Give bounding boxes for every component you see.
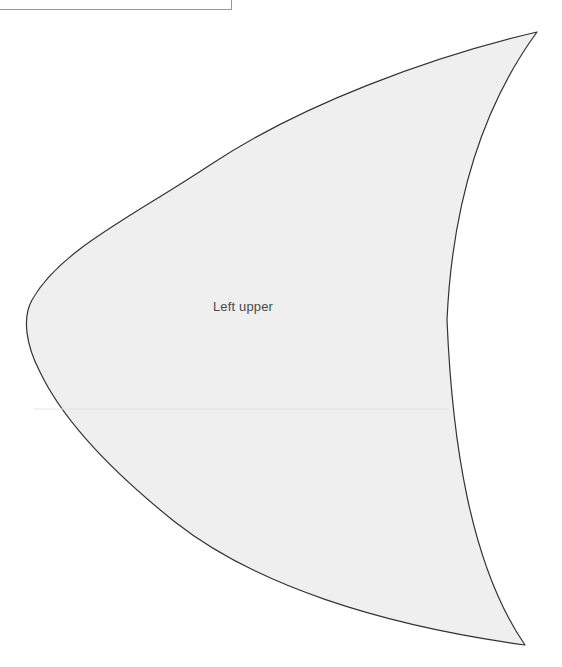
region-label-left-upper: Left upper [213,299,274,314]
region-shape-svg: Left upper [0,0,562,667]
diagram-canvas: Left upper [0,0,562,667]
region-left-upper-path[interactable] [26,32,537,645]
